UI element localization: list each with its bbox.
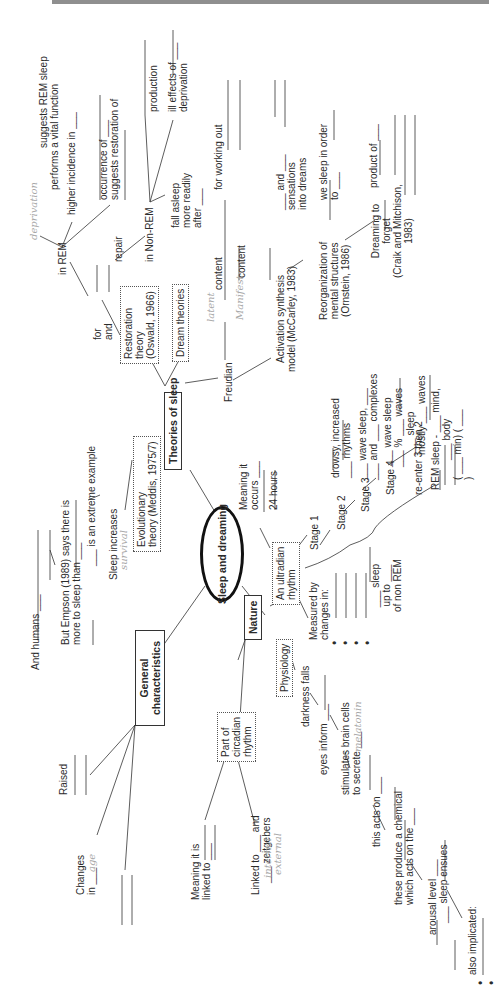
central-node: Sleep and dreaming — [200, 506, 244, 602]
meaning-linked-to: Meaning it is linked to ___ — [190, 843, 212, 900]
circadian-rhythm-box: Part of circadian rhythm — [217, 712, 256, 762]
handwritten-deprivation: deprivation — [28, 182, 39, 240]
produce-chemical: these produce a chemical which acts on t… — [393, 791, 415, 905]
dreaming-to-forget: Dreaming to forget (Craik and Mitchison,… — [370, 184, 414, 278]
product-of: product of ___ — [368, 124, 379, 188]
and-sensations: ___ and ___ sensations into dreams — [275, 154, 308, 210]
nonrem-fall-asleep: fall asleep more readily after ___ — [170, 173, 203, 228]
and-humans: And humans ___ — [30, 594, 41, 670]
implicated-bullets: •• — [476, 981, 498, 985]
evolutionary-theory-box: Evolutionary theory (Meddis, 1975/7) — [133, 436, 161, 552]
handwritten-latent: latent — [205, 292, 216, 322]
stage-2-label: Stage 2 — [336, 496, 347, 530]
latent-content: content — [213, 257, 224, 290]
also-implicated: also implicated: — [467, 906, 478, 975]
empson-note: But Empson (1989) says there is more to … — [60, 500, 82, 645]
in-rem-label: in REM — [57, 242, 68, 275]
theories-of-sleep-box: Theories of sleep — [164, 392, 182, 470]
nonrem-production: production — [148, 65, 159, 112]
in-nonrem-label: in Non-REM — [144, 208, 155, 262]
handwritten-age: age — [86, 854, 97, 872]
raised-label: Raised — [58, 764, 69, 795]
freudian-label: Freudian — [223, 363, 234, 402]
nature-box: Nature — [244, 595, 262, 640]
handwritten-survival: survival — [118, 530, 129, 570]
handwritten-melatonin: melatonin — [352, 701, 363, 752]
meaning-it-occurs: Meaning it occurs ___ — [238, 461, 260, 510]
nonrem-ill-effects: ill effects of ___ deprivation — [167, 43, 189, 112]
restoration-theory-box: Restoration theory (Oswald, 1966) — [120, 286, 159, 364]
stage-2-desc: ___ wave sleep, ___ ___ and ___ complexe… — [357, 374, 379, 480]
stage-1-desc: drowsy, increased ___ rhythms — [330, 398, 352, 478]
sleep-in-order: we sleep in order to ___ — [318, 124, 340, 200]
arousal-level: arousal level ___ ___ sleep ensues — [427, 845, 449, 935]
stage-1-label: Stage 1 — [309, 516, 320, 550]
general-characteristics-box: General characteristics — [135, 630, 165, 726]
manifest-content: content — [236, 245, 247, 278]
ultradian-rhythm-box: An ultradian rhythm — [272, 542, 300, 605]
repair-label: repair — [113, 236, 124, 262]
this-acts-on: this acts on ___ — [371, 777, 382, 847]
rem-higher-incidence: higher incidence in ___ — [66, 112, 77, 215]
reenter-label: re-enter 3 then 2 — [413, 421, 424, 495]
stage-3-label: Stage 3 — [360, 478, 371, 512]
handwritten-manifest: Manifest — [234, 275, 245, 320]
eyes-inform: eyes inform ___ — [318, 704, 329, 775]
rem-sleep-desc: REM sleep - ___ mind, ___ body ( ___ min… — [430, 388, 474, 490]
activation-synthesis: Activation synthesis model (McCarley, 19… — [275, 266, 297, 372]
for-working-out: for working out — [213, 124, 224, 190]
24-hours: 24 hours — [268, 471, 279, 510]
handwritten-external: external — [272, 833, 283, 875]
reorganization-label: Reorganization of mental structures (Orn… — [318, 242, 351, 320]
darkness-falls: darkness falls — [300, 666, 311, 727]
stage-3-desc: ___ wave sleep ___ % ___ waves — [382, 388, 404, 467]
dream-theories-box: Dream theories — [172, 284, 189, 362]
physiology-box: Physiology — [276, 639, 293, 697]
central-node-label: Sleep and dreaming — [216, 504, 228, 604]
rem-occurrence: occurrence of ___ suggests restoration o… — [98, 99, 120, 200]
extreme-example: ___ is an extreme example — [86, 446, 97, 566]
measured-bullets: • ••• — [330, 634, 374, 645]
rem-vital-function: suggests REM sleep performs a vital func… — [38, 56, 60, 190]
sleep-up-to: ___ sleep up to ___ of non REM — [370, 559, 403, 612]
for-and-label: for and — [92, 323, 114, 340]
measured-by: Measured by changes in: — [308, 582, 330, 640]
stage-4-label: Stage 4 — [385, 461, 396, 495]
